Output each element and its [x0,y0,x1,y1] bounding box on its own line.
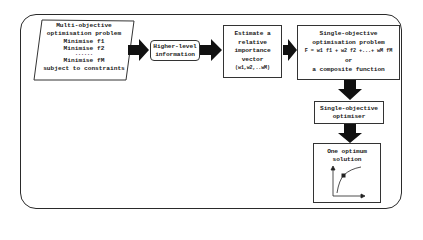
estimate-weights-node: Estimate a relative importance vector (w… [223,25,282,78]
objective-item: Minimise fM [36,57,132,65]
optimum-solution-node: One optimum solution [313,143,381,203]
node-label: One optimum [314,148,380,156]
multi-objective-node: Multi-objective optimisation problem Min… [36,22,132,73]
single-objective-optimizer-node: Single-objective optimiser [314,101,384,124]
node-label: or [298,56,399,65]
node-label: vector [224,56,281,65]
node-label: a composite function [298,65,399,74]
node-title: Multi-objective [36,22,132,30]
node-label: solution [314,156,380,164]
arrow-right-icon [283,39,297,61]
node-title: Single-objective [298,29,399,38]
node-label: relative [224,39,281,48]
node-label: optimiser [315,113,383,121]
node-label: information [151,51,199,59]
arrow-down-icon [338,80,362,100]
higher-level-node: Higher-level information [150,40,200,61]
node-title: optimisation problem [36,30,132,38]
objective-item: Minimise f1 [36,38,132,45]
arrow-right-icon [200,39,222,61]
arrow-down-icon [338,124,362,143]
node-label: importance [224,47,281,56]
weighted-sum-formula: F = w1 f1 + w2 f2 +...+ wM fM [298,47,399,56]
node-label: Single-objective [315,105,383,113]
weight-vector-label: (w1,w2,..wM) [224,64,281,73]
node-label: Higher-level [151,43,199,51]
node-title: optimisation problem [298,38,399,47]
node-label: Estimate a [224,30,281,39]
constraint-label: subject to constraints [36,65,132,73]
single-objective-problem-node: Single-objective optimisation problem F … [297,25,400,80]
